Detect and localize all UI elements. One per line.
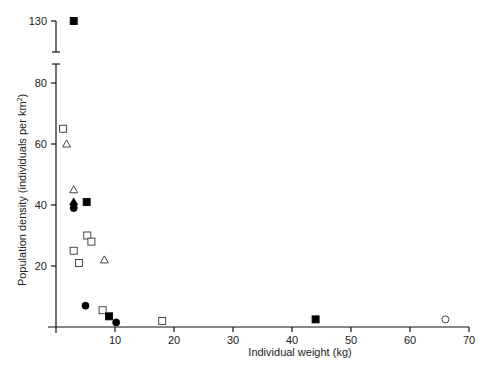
x-tick-label: 60 [404,334,416,346]
data-points [60,18,449,326]
square-marker [88,238,95,245]
square-marker [60,125,67,132]
square-marker [99,307,106,314]
x-tick-label: 20 [168,334,180,346]
circle-marker [70,205,77,212]
square-marker [83,198,90,205]
y-tick-label: 20 [35,260,47,272]
x-tick-label: 50 [345,334,357,346]
x-tick-label: 10 [109,334,121,346]
square-marker [70,247,77,254]
axes: 1020304050607020406080130 [29,15,475,346]
x-axis-title: Individual weight (kg) [248,346,351,358]
square-marker [76,259,83,266]
x-tick-label: 40 [286,334,298,346]
triangle-marker [100,256,108,263]
circle-marker [113,319,120,326]
x-tick-label: 70 [463,334,475,346]
x-tick-label: 30 [227,334,239,346]
square-marker [159,317,166,324]
y-axis-title-main: Population density (individuals per km [16,101,28,286]
circle-marker [82,302,89,309]
scatter-chart: 1020304050607020406080130 Individual wei… [0,0,504,372]
y-tick-label: 40 [35,199,47,211]
triangle-marker [70,198,78,205]
square-marker [312,316,319,323]
y-axis-title-end: ) [16,94,28,98]
triangle-marker [63,140,71,147]
square-marker [70,18,77,25]
y-axis-title: Population density (individuals per km2) [16,94,28,286]
y-tick-label: 80 [35,77,47,89]
triangle-marker [70,186,78,193]
square-marker [106,313,113,320]
circle-marker [442,316,449,323]
y-tick-label: 130 [29,15,47,27]
y-tick-label: 60 [35,138,47,150]
